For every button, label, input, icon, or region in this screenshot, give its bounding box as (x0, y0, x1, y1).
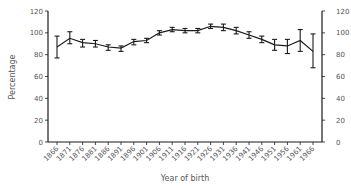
left-tick-label: 20 (34, 117, 43, 125)
left-tick-label: 80 (34, 51, 43, 59)
right-tick-label: 60 (336, 73, 345, 81)
left-tick-label: 60 (34, 73, 43, 81)
right-tick-label: 20 (336, 117, 345, 125)
right-tick-label: 0 (336, 139, 340, 147)
y-axis-title: Percentage (8, 54, 17, 99)
chart-container: 020406080100120 020406080100120 18661871… (0, 0, 351, 188)
x-tick-label: 1966 (298, 144, 317, 163)
left-tick-label: 40 (34, 95, 43, 103)
x-axis-title: Year of birth (160, 174, 210, 183)
left-tick-label: 120 (30, 8, 43, 16)
right-tick-label: 80 (336, 51, 345, 59)
x-axis: 1866187118761881188618911896190119061911… (42, 142, 322, 163)
right-tick-label: 120 (336, 8, 349, 16)
right-tick-label: 100 (336, 29, 349, 37)
left-tick-label: 0 (39, 139, 43, 147)
right-tick-label: 40 (336, 95, 345, 103)
data-series (55, 24, 316, 68)
left-tick-label: 100 (30, 29, 43, 37)
right-y-axis: 020406080100120 (322, 8, 349, 147)
line-chart-with-error-bars: 020406080100120 020406080100120 18661871… (0, 0, 351, 188)
left-y-axis: 020406080100120 (30, 8, 48, 147)
